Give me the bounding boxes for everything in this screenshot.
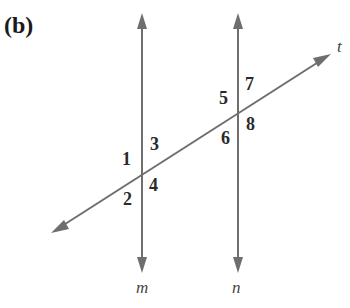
angle-label-8: 8 <box>246 114 255 134</box>
line-n <box>233 13 243 273</box>
angle-label-6: 6 <box>221 128 230 148</box>
panel-label: (b) <box>4 12 33 38</box>
arrow-down-icon <box>233 257 243 273</box>
angle-label-2: 2 <box>123 189 132 209</box>
angle-label-4: 4 <box>149 175 158 195</box>
line-label-n: n <box>232 278 241 297</box>
parallel-lines-transversal-diagram: (b) m n t 1 3 2 4 5 7 6 8 <box>0 0 350 308</box>
arrow-up-icon <box>233 13 243 29</box>
arrow-up-right-icon <box>313 54 331 67</box>
angle-label-3: 3 <box>150 134 159 154</box>
arrow-up-icon <box>137 13 147 29</box>
line-m <box>137 13 147 273</box>
arrow-down-icon <box>137 257 147 273</box>
line-t-transversal <box>51 54 331 233</box>
angle-label-5: 5 <box>219 88 228 108</box>
angle-label-7: 7 <box>245 74 254 94</box>
arrow-down-left-icon <box>51 220 69 233</box>
line-label-t: t <box>337 37 343 56</box>
angle-label-1: 1 <box>122 149 131 169</box>
line-label-m: m <box>136 278 148 297</box>
